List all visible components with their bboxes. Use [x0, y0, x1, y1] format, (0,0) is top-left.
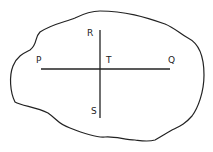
label-s: S	[91, 106, 97, 116]
diagram-canvas: P R T Q S	[0, 0, 213, 152]
label-t: T	[105, 55, 112, 65]
label-r: R	[87, 28, 93, 38]
label-q: Q	[168, 55, 175, 65]
blob-outline	[11, 11, 204, 141]
label-p: P	[36, 55, 42, 65]
